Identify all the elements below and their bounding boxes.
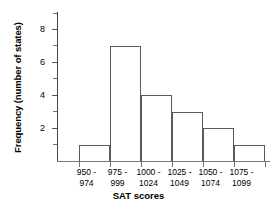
- y-tick-4: 4: [52, 95, 57, 96]
- bar-1025-1049: [172, 112, 203, 162]
- y-tick-label-4: 4: [40, 91, 45, 100]
- y-tick-minor-9: [53, 13, 57, 14]
- plot-area: 8 6 4 2: [57, 12, 270, 162]
- y-axis-line: [57, 12, 58, 162]
- y-tick-minor-5: [53, 78, 57, 79]
- y-tick-label-8: 8: [40, 25, 45, 34]
- x-axis-title: SAT scores: [0, 190, 277, 201]
- y-tick-6: 6: [52, 62, 57, 63]
- x-tick-label-1075-1099: 1075 - 1099: [219, 167, 264, 188]
- bar-1075-1099: [234, 145, 265, 162]
- y-tick-label-2: 2: [40, 124, 45, 133]
- y-tick-2: 2: [52, 128, 57, 129]
- y-axis-title: Frequency (number of states): [12, 8, 23, 168]
- bar-1050-1074: [203, 128, 234, 161]
- y-tick-minor-1: [53, 144, 57, 145]
- bar-1000-1024: [141, 95, 172, 161]
- y-tick-minor-7: [53, 45, 57, 46]
- bar-950-974: [79, 145, 110, 162]
- x-tick-label-line1: 1075 -: [219, 167, 264, 178]
- x-tick-6: [265, 161, 266, 167]
- y-tick-8: 8: [52, 29, 57, 30]
- x-axis-line: [57, 161, 270, 162]
- histogram-chart: Frequency (number of states) 8 6 4 2: [0, 0, 277, 214]
- x-tick-label-line2: 1099: [219, 178, 264, 189]
- y-tick-label-6: 6: [40, 58, 45, 67]
- bar-975-999: [110, 46, 141, 162]
- y-tick-minor-3: [53, 111, 57, 112]
